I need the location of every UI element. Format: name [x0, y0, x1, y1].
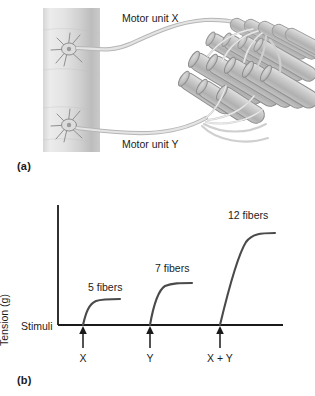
stimulus-arrow-y	[146, 326, 154, 348]
motor-unit-y-label: Motor unit Y	[122, 138, 178, 150]
stimulus-label-x: X	[73, 352, 93, 364]
x-axis-title: Stimuli	[21, 320, 53, 332]
panel-label-a: (a)	[17, 160, 31, 172]
panel-a-anatomy: Motor unit X Motor unit Y	[0, 0, 315, 180]
figure-root: Motor unit X Motor unit Y (a)	[0, 0, 315, 396]
motor-unit-illustration	[0, 0, 315, 180]
annotation-12-fibers: 12 fibers	[228, 209, 268, 221]
tension-curve-y	[150, 283, 192, 325]
panel-label-b: (b)	[17, 374, 32, 386]
tension-curve-x	[83, 299, 120, 325]
stimulus-label-y: Y	[140, 352, 160, 364]
tension-curve-x-plus-y	[220, 233, 275, 325]
panel-b-tension-graph: Tension (g) Stimuli 5 fibers 7 fibers 12…	[0, 180, 315, 396]
motor-unit-x-label: Motor unit X	[122, 12, 179, 24]
annotation-7-fibers: 7 fibers	[155, 262, 189, 274]
stimulus-arrow-x	[79, 326, 87, 348]
y-axis-title: Tension (g)	[0, 270, 10, 370]
stimulus-label-x-plus-y: X + Y	[199, 352, 241, 364]
annotation-5-fibers: 5 fibers	[88, 281, 122, 293]
stimulus-arrow-x-plus-y	[216, 326, 224, 348]
skeletal-muscle-fiber-bundle	[176, 16, 315, 127]
